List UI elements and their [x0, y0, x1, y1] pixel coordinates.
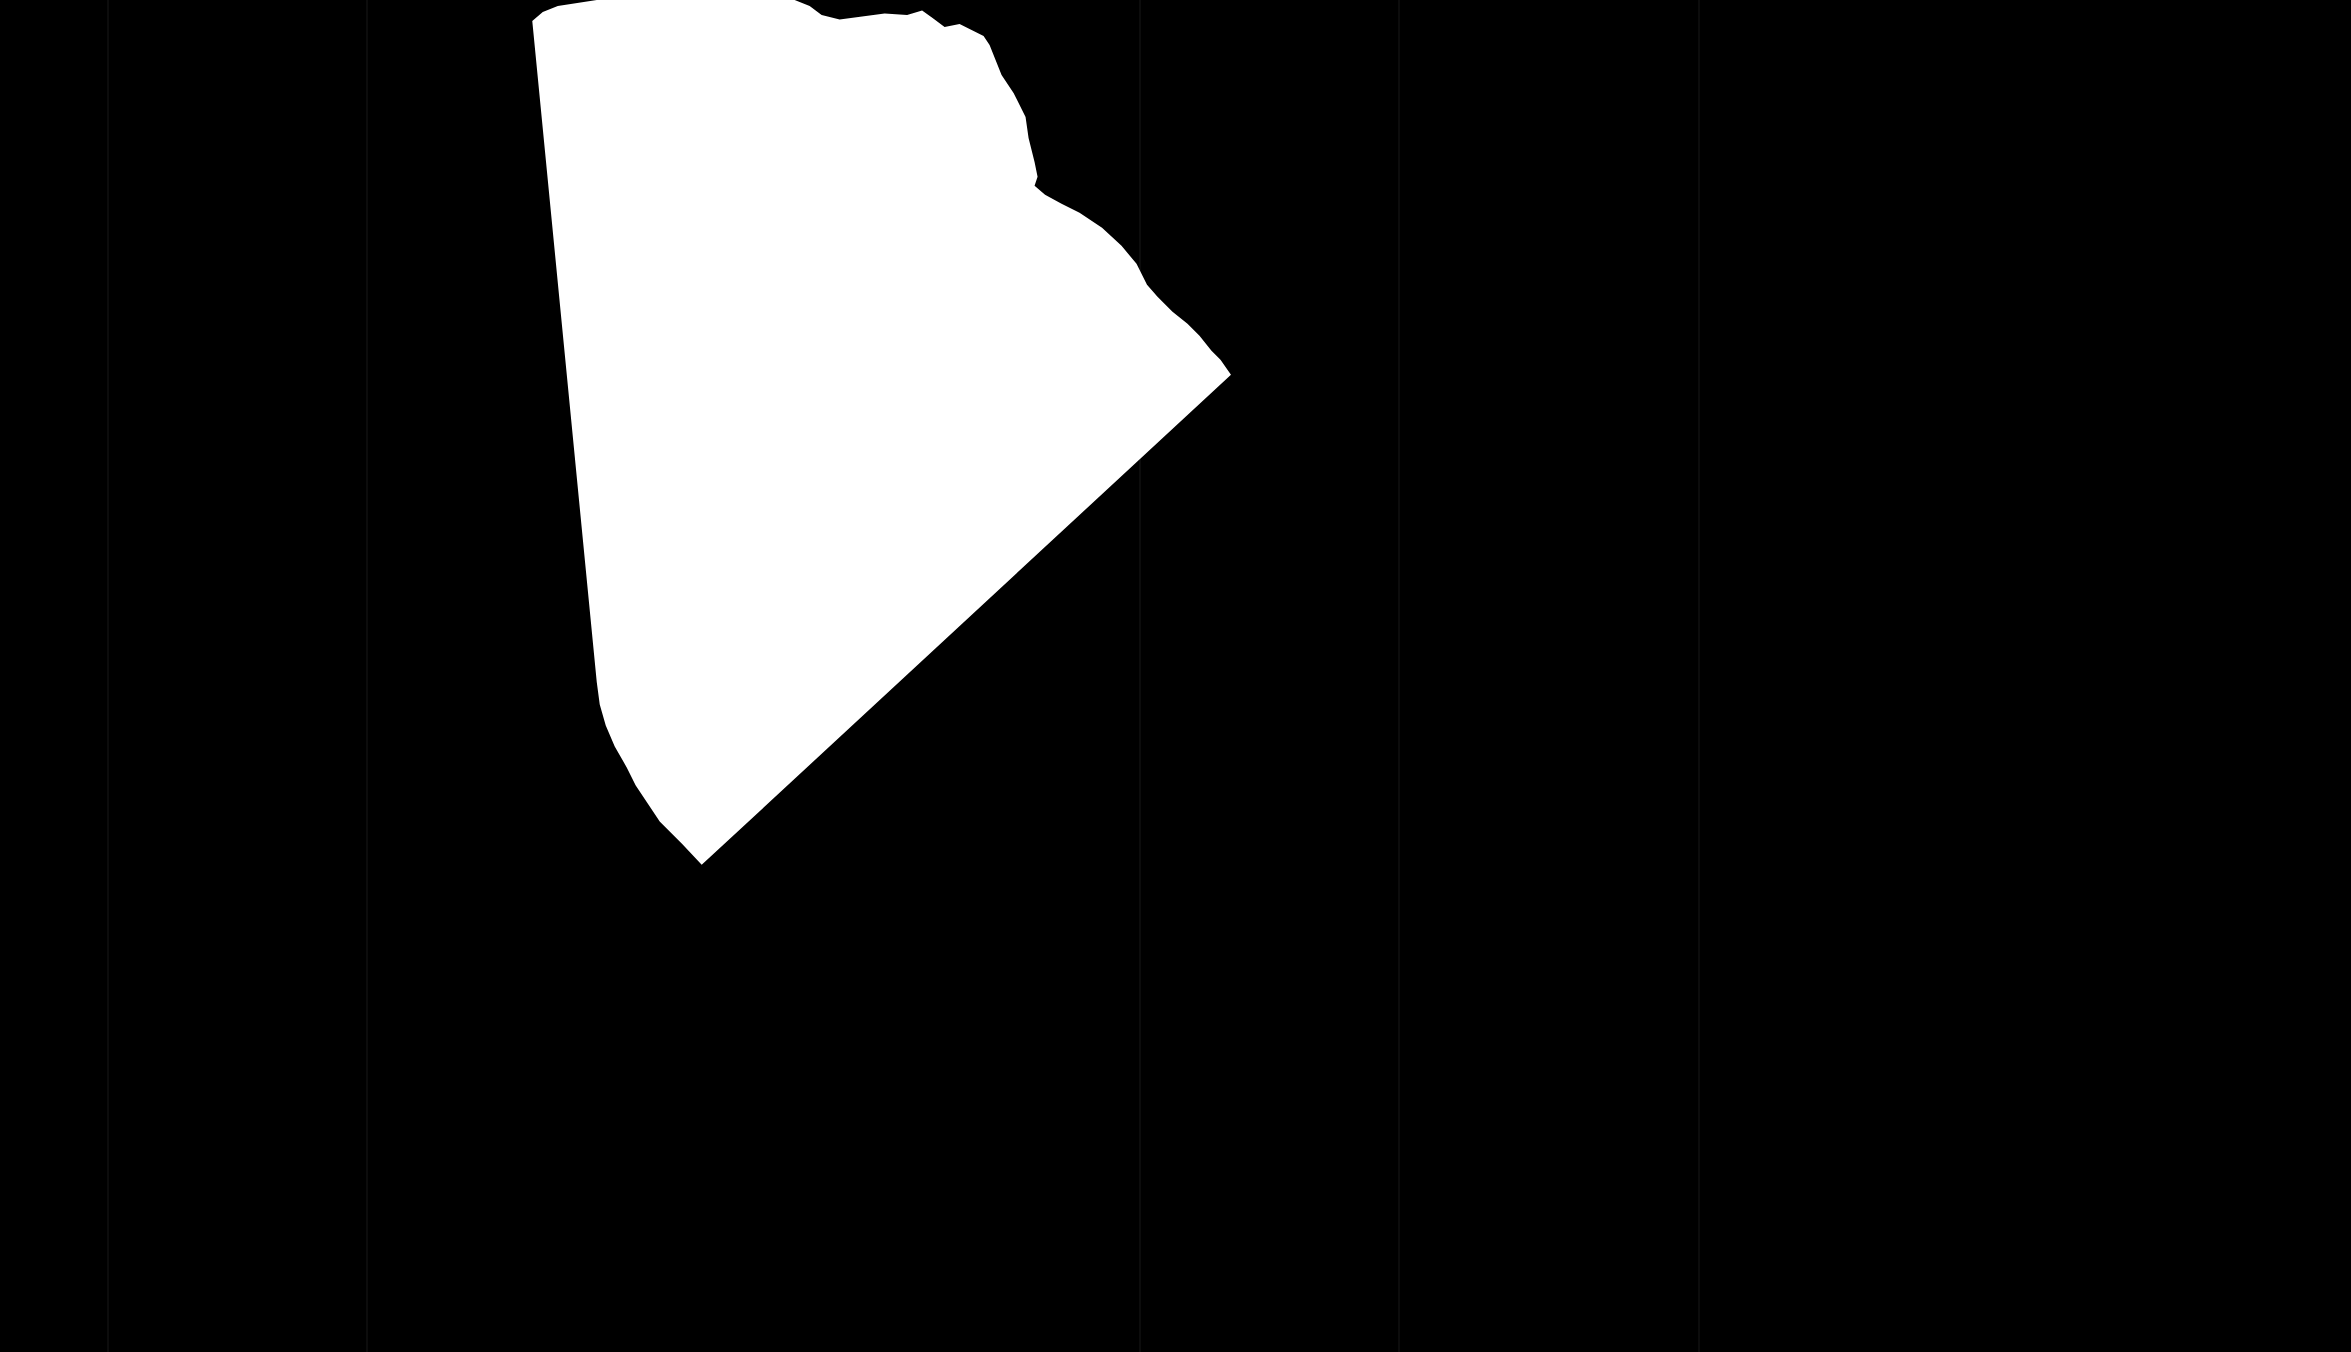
- torn-paper-shape: [0, 0, 2351, 1352]
- photo-scene: [0, 0, 2351, 1352]
